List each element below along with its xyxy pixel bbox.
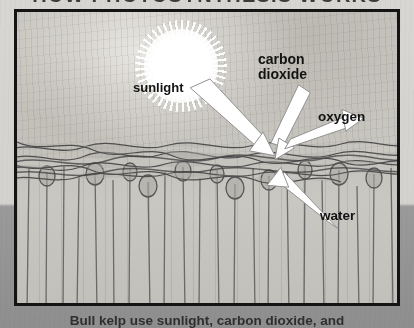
label-carbon-dioxide-line2: dioxide — [258, 67, 307, 82]
label-oxygen: oxygen — [318, 110, 365, 124]
illustration-scene — [17, 12, 397, 303]
illustration-frame — [14, 9, 400, 306]
poster-page: HOW PHOTOSYNTHESIS WORKS — [0, 0, 414, 328]
process-arrows — [17, 12, 397, 303]
page-title: HOW PHOTOSYNTHESIS WORKS — [0, 0, 414, 7]
caption-text: Bull kelp use sunlight, carbon dioxide, … — [0, 313, 414, 328]
label-water: water — [320, 209, 355, 223]
label-sunlight: sunlight — [133, 81, 184, 95]
arrow-icon-carbon-dioxide — [271, 85, 310, 160]
label-carbon-dioxide: carbon dioxide — [258, 52, 307, 82]
arrow-icon-sunlight — [190, 79, 275, 156]
label-carbon-dioxide-line1: carbon — [258, 52, 307, 67]
